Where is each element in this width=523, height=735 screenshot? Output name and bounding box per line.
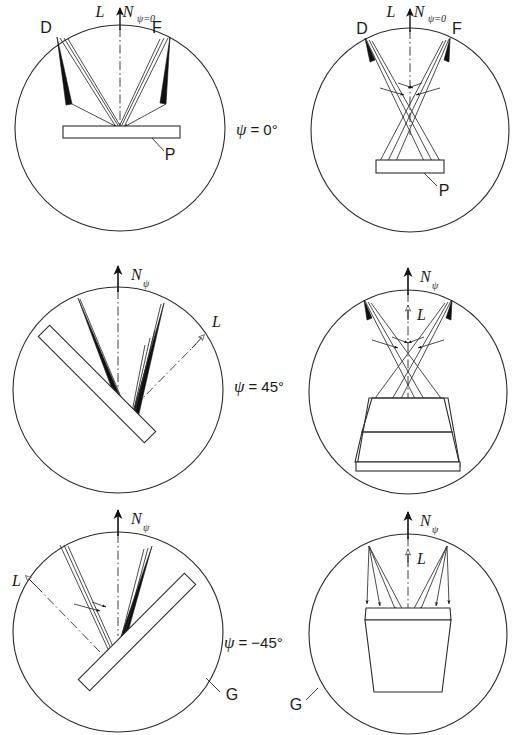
normal-label-N: N [130, 510, 143, 527]
specimen-label-P: P [165, 146, 176, 163]
specimen-plate-base [356, 462, 460, 471]
labels-row2-left: N ψ L [130, 266, 221, 330]
normal-subscript: ψ [432, 280, 439, 291]
source-label-L: L [11, 572, 21, 589]
ray-bundle-right [119, 38, 168, 127]
normal-label-N: N [122, 3, 135, 20]
normal-subscript: ψ [432, 524, 439, 535]
goniometer-label-G: G [226, 686, 238, 703]
detector-label-D: D [356, 20, 368, 37]
ray-bundle-left [60, 38, 121, 127]
labels-row2-right: N ψ L [416, 268, 439, 323]
specimen-plate-body [365, 620, 451, 692]
panel-row2-left [13, 266, 223, 493]
psi-label-text: ψ=−45° [224, 633, 283, 652]
source-label-L: L [386, 3, 396, 20]
goniometer-leader [306, 688, 318, 700]
beam-cone-f [160, 37, 170, 104]
detector-label-D: D [40, 19, 52, 36]
source-label-L: L [95, 3, 105, 20]
specimen-plate-body [355, 432, 459, 462]
psi-label-row3: ψ=−45° [224, 633, 283, 652]
focus-label-F: F [452, 20, 462, 37]
normal-label-N: N [413, 3, 426, 20]
beam-cone-left [364, 300, 372, 320]
normal-label-N: N [419, 512, 432, 529]
normal-subscript: ψ [143, 278, 150, 289]
psi-symbol: ψ [224, 633, 235, 652]
beam-cone-right [132, 303, 164, 418]
labels-row3-right: N ψ L [416, 512, 439, 567]
specimen-leader [152, 138, 164, 151]
labels-row3-left: N ψ L [11, 510, 150, 589]
specimen-plate [63, 126, 180, 138]
normal-subscript: ψ=0 [428, 13, 446, 24]
ray-bundle-cross-right [380, 39, 449, 161]
psi-symbol: ψ [236, 120, 247, 139]
psi-value: 45° [261, 378, 284, 395]
normal-subscript: ψ [143, 522, 150, 533]
specimen-plate-top [365, 608, 451, 620]
psi-symbol: ψ [234, 377, 245, 396]
source-arrow [26, 576, 42, 592]
panel-row3-right: G [290, 512, 507, 734]
goniometer-circle [13, 532, 223, 732]
goniometer-label-G: G [290, 696, 302, 713]
source-label-L: L [416, 306, 426, 323]
panel-row1-right: D F L N ψ=0 P [311, 3, 509, 232]
psi-value: 0° [263, 121, 277, 138]
psi-tilt-diagram: D F L N ψ=0 P D F L [0, 0, 523, 735]
specimen-plate-top [362, 398, 452, 432]
panel-row2-right [309, 268, 507, 494]
source-arrow [192, 335, 204, 348]
beam-cone-right [446, 300, 452, 320]
panel-row3-left: G [13, 510, 238, 732]
goniometer-leader [206, 678, 220, 692]
specimen-label-P: P [439, 182, 450, 199]
source-label-L: L [211, 313, 221, 330]
psi-value: −45° [251, 634, 282, 651]
psi-label-text: ψ=0° [236, 120, 278, 139]
specimen-leader [424, 173, 437, 186]
normal-subscript: ψ=0 [137, 13, 155, 24]
psi-label-row1: ψ=0° [236, 120, 278, 139]
psi-label-text: ψ=45° [234, 377, 284, 396]
psi-label-row2: ψ=45° [234, 377, 284, 396]
normal-label-N: N [130, 266, 143, 283]
normal-label-N: N [419, 268, 432, 285]
panel-row1-left: D F L N ψ=0 P [15, 3, 225, 231]
specimen-plate [376, 160, 444, 173]
ray-bundle-cross-left [366, 39, 440, 161]
figure-root: D F L N ψ=0 P D F L [0, 0, 523, 735]
source-label-L: L [416, 550, 426, 567]
